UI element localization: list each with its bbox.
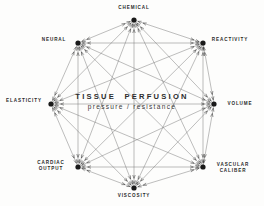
node-vascular-caliber[interactable] [200,164,205,169]
center-title: TISSUE PERFUSION [75,92,188,101]
node-label-volume: VOLUME [227,101,252,107]
node-label-chemical: CHEMICAL [118,5,149,11]
node-label-viscosity: VISCOSITY [118,193,151,199]
tissue-perfusion-diagram: TISSUE PERFUSION pressure / resistance C… [0,0,264,206]
node-label-elasticity: ELASTICITY [6,98,42,104]
node-label-cardiac-output: CARDIAC OUTPUT [37,160,64,172]
node-dot-chemical [131,17,136,22]
center-subtitle: pressure / resistance [88,103,177,110]
node-label-vascular-caliber: VASCULAR CALIBER [217,162,249,174]
node-dot-reactivity [200,40,205,45]
edge-chemical-to-reactivity [134,20,203,43]
edge-vascular-caliber-to-viscosity [134,167,203,188]
edge-reactivity-to-viscosity [134,43,203,188]
edge-viscosity-to-neural [78,43,134,188]
edge-volume-to-viscosity [134,104,214,188]
node-chemical[interactable] [131,17,136,22]
node-volume[interactable] [211,101,216,106]
node-label-reactivity: REACTIVITY [212,37,248,43]
node-elasticity[interactable] [48,101,53,106]
node-label-neural: NEURAL [42,37,67,43]
edge-viscosity-to-elasticity [51,104,134,188]
node-reactivity[interactable] [200,40,205,45]
node-dot-cardiac-output [75,164,80,169]
node-neural[interactable] [75,40,80,45]
node-viscosity[interactable] [131,185,136,190]
node-dot-vascular-caliber [200,164,205,169]
node-dot-neural [75,40,80,45]
node-dot-elasticity [48,101,53,106]
node-cardiac-output[interactable] [75,164,80,169]
node-dot-viscosity [131,185,136,190]
node-dot-volume [211,101,216,106]
